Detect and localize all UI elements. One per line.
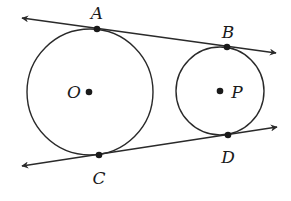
tangent-circles-diagram: A B C D O P xyxy=(0,0,291,201)
tangent-line-ab xyxy=(22,18,276,53)
tangent-line-cd xyxy=(22,127,277,166)
point-a xyxy=(94,26,101,33)
label-p: P xyxy=(230,82,243,102)
point-d xyxy=(225,132,232,139)
label-a: A xyxy=(89,3,103,23)
label-c: C xyxy=(92,168,105,188)
center-o xyxy=(86,89,93,96)
label-o: O xyxy=(67,82,81,102)
label-d: D xyxy=(220,147,235,167)
point-c xyxy=(96,152,103,159)
label-b: B xyxy=(221,22,235,42)
point-b xyxy=(224,44,231,51)
center-p xyxy=(217,88,224,95)
